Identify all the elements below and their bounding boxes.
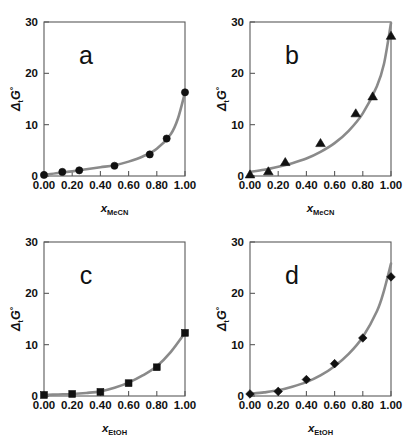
panel-d-svg: 01020300.000.200.400.600.801.00dΔtG°xEtO…	[206, 220, 415, 440]
fit-curve	[250, 264, 391, 394]
x-axis-tick-label: 0.20	[61, 399, 83, 411]
panel-a-svg: 01020300.000.200.400.600.801.00aΔtG°xMeC…	[0, 0, 209, 220]
y-axis-delta: Δ	[215, 323, 229, 332]
data-point-circle	[76, 167, 83, 174]
plot-frame	[250, 242, 391, 396]
y-axis-g: G	[9, 310, 23, 320]
y-axis-degree: °	[8, 86, 18, 90]
x-axis-title: xEtOH	[307, 422, 333, 437]
data-point-circle	[59, 168, 66, 175]
y-axis-g: G	[215, 90, 229, 100]
data-point-triangle	[351, 109, 361, 117]
data-point-square	[97, 388, 104, 395]
y-axis-title: ΔtG°	[8, 306, 25, 332]
x-axis-tick-label: 0.80	[146, 179, 168, 191]
x-axis-tick-label: 0.00	[33, 399, 55, 411]
x-axis-tick-label: 0.20	[267, 399, 289, 411]
y-axis-tick-label: 20	[25, 67, 38, 79]
x-axis-subscript: MeCN	[313, 208, 334, 217]
x-axis-tick-label: 0.40	[295, 179, 317, 191]
data-point-circle	[146, 151, 153, 158]
figure-canvas: 01020300.000.200.400.600.801.00aΔtG°xMeC…	[0, 0, 419, 441]
x-axis-title: xEtOH	[101, 422, 127, 437]
data-point-square	[69, 391, 76, 398]
y-axis-tick-label: 30	[231, 236, 244, 248]
y-axis-delta: Δ	[9, 323, 23, 332]
x-axis-subscript: EtOH	[108, 428, 127, 437]
panel-b-plot-area: 01020300.000.200.400.600.801.00bΔtG°xMeC…	[214, 16, 402, 217]
data-point-triangle	[280, 158, 290, 166]
y-axis-title: ΔtG°	[8, 86, 25, 112]
fit-curve	[44, 333, 185, 395]
y-axis-tick-label: 10	[231, 119, 244, 131]
x-axis-title: xMeCN	[100, 202, 129, 217]
x-axis-tick-label: 0.40	[89, 399, 111, 411]
x-axis-tick-label: 0.40	[89, 179, 111, 191]
y-axis-tick-label: 10	[25, 119, 38, 131]
data-point-circle	[40, 171, 47, 178]
data-point-square	[182, 329, 189, 336]
x-axis-tick-label: 0.80	[352, 399, 374, 411]
data-point-triangle	[368, 92, 378, 100]
y-axis-g: G	[9, 90, 23, 100]
x-axis-tick-label: 0.60	[323, 399, 345, 411]
panel-b: 01020300.000.200.400.600.801.00bΔtG°xMeC…	[206, 0, 415, 220]
data-point-triangle	[386, 31, 396, 39]
x-axis-tick-label: 1.00	[380, 399, 402, 411]
y-axis-degree: °	[8, 306, 18, 310]
y-axis-g: G	[215, 310, 229, 320]
x-axis-tick-label: 0.60	[323, 179, 345, 191]
data-point-circle	[111, 162, 118, 169]
panel-a: 01020300.000.200.400.600.801.00aΔtG°xMeC…	[0, 0, 209, 220]
x-axis-tick-label: 0.80	[352, 179, 374, 191]
data-point-diamond	[246, 390, 255, 399]
x-axis-tick-label: 0.60	[117, 179, 139, 191]
x-axis-title: xMeCN	[306, 202, 335, 217]
y-axis-tick-label: 10	[231, 339, 244, 351]
y-axis-tick-label: 30	[25, 236, 38, 248]
data-point-square	[153, 364, 160, 371]
data-point-square	[125, 380, 132, 387]
y-axis-delta: Δ	[215, 103, 229, 112]
panel-c-plot-area: 01020300.000.200.400.600.801.00cΔtG°xEtO…	[8, 236, 196, 437]
x-axis-tick-label: 0.20	[267, 179, 289, 191]
x-axis-tick-label: 1.00	[380, 179, 402, 191]
data-point-circle	[181, 89, 188, 96]
x-axis-tick-label: 0.80	[146, 399, 168, 411]
panel-letter: a	[79, 41, 93, 69]
data-point-square	[41, 392, 48, 399]
y-axis-tick-label: 30	[25, 16, 38, 28]
data-point-triangle	[316, 139, 326, 147]
x-axis-tick-label: 0.00	[33, 179, 55, 191]
y-axis-degree: °	[214, 86, 224, 90]
y-axis-title: ΔtG°	[214, 86, 231, 112]
y-axis-tick-label: 20	[231, 67, 244, 79]
y-axis-degree: °	[214, 306, 224, 310]
data-point-circle	[163, 135, 170, 142]
plot-frame	[44, 22, 185, 176]
panel-c-svg: 01020300.000.200.400.600.801.00cΔtG°xEtO…	[0, 220, 209, 440]
y-axis-tick-label: 20	[25, 287, 38, 299]
x-axis-tick-label: 1.00	[174, 179, 196, 191]
x-axis-tick-label: 0.00	[239, 399, 261, 411]
x-axis-tick-label: 0.60	[117, 399, 139, 411]
x-axis-subscript: EtOH	[314, 428, 333, 437]
panel-a-plot-area: 01020300.000.200.400.600.801.00aΔtG°xMeC…	[8, 16, 196, 217]
y-axis-tick-label: 10	[25, 339, 38, 351]
panel-letter: b	[285, 41, 299, 69]
plot-frame	[44, 242, 185, 396]
y-axis-delta: Δ	[9, 103, 23, 112]
panel-d-plot-area: 01020300.000.200.400.600.801.00dΔtG°xEtO…	[214, 236, 402, 437]
x-axis-tick-label: 0.00	[239, 179, 261, 191]
x-axis-tick-label: 1.00	[174, 399, 196, 411]
x-axis-tick-label: 0.40	[295, 399, 317, 411]
panel-c: 01020300.000.200.400.600.801.00cΔtG°xEtO…	[0, 220, 209, 440]
x-axis-subscript: MeCN	[107, 208, 128, 217]
panel-letter: d	[285, 261, 299, 289]
y-axis-tick-label: 30	[231, 16, 244, 28]
x-axis-tick-label: 0.20	[61, 179, 83, 191]
panel-b-svg: 01020300.000.200.400.600.801.00bΔtG°xMeC…	[206, 0, 415, 220]
y-axis-title: ΔtG°	[214, 306, 231, 332]
y-axis-tick-label: 20	[231, 287, 244, 299]
data-point-diamond	[330, 359, 339, 368]
